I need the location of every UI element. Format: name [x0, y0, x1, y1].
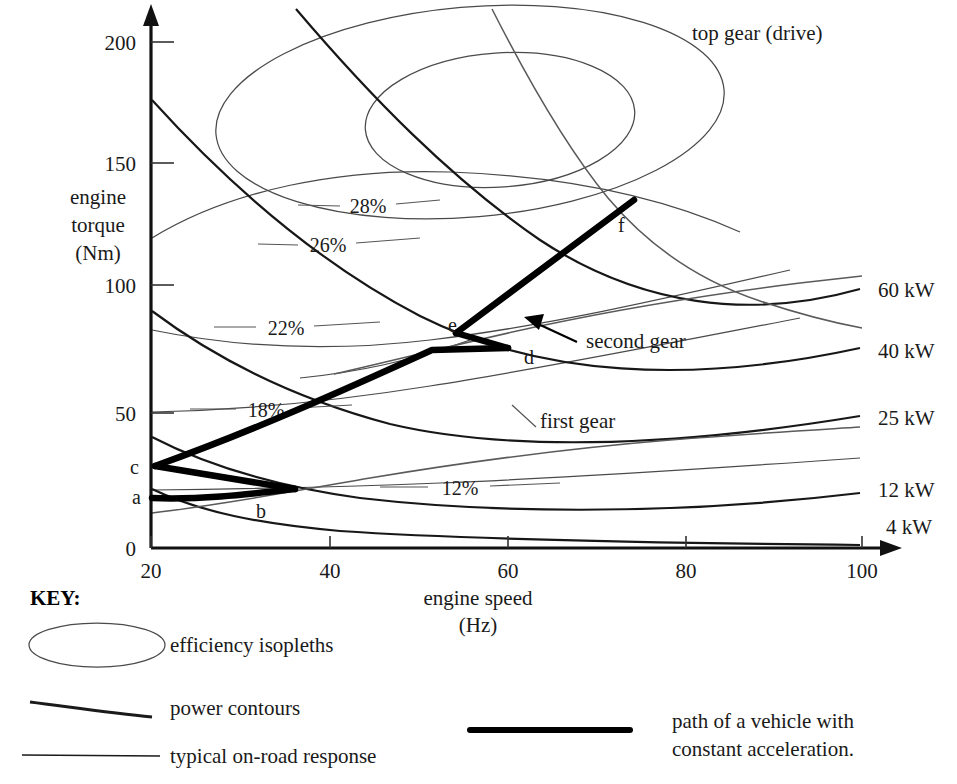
- path-point-label-e: e: [448, 314, 457, 336]
- y-tick-label-0: 0: [126, 537, 137, 561]
- annotation-first-gear: first gear: [540, 409, 615, 433]
- isopleth-label-12: 12%: [442, 477, 479, 499]
- path-point-label-b: b: [256, 500, 266, 522]
- x-tick-label-80: 80: [676, 559, 697, 583]
- key-label-on-road-response: typical on-road response: [170, 744, 376, 768]
- x-axis-unit: (Hz): [459, 613, 497, 637]
- path-point-label-c: c: [130, 456, 139, 478]
- x-tick-label-60: 60: [498, 559, 519, 583]
- isopleth-label-26: 26%: [310, 234, 347, 256]
- x-axis-title: engine speed: [423, 586, 533, 610]
- y-axis-title-line2: torque: [71, 213, 125, 237]
- annotation-second-gear: second gear: [586, 329, 686, 353]
- x-tick-label-100: 100: [846, 559, 878, 583]
- path-point-label-a: a: [132, 486, 141, 508]
- power-label-12kw: 12 kW: [878, 478, 935, 502]
- key-label-efficiency-isopleths: efficiency isopleths: [170, 633, 333, 657]
- x-tick-label-20: 20: [141, 559, 162, 583]
- x-tick-label-40: 40: [320, 559, 341, 583]
- chart-background: [0, 0, 957, 784]
- path-point-label-f: f: [618, 214, 625, 236]
- key-title: KEY:: [30, 586, 81, 610]
- y-axis-title-line1: engine: [70, 185, 126, 209]
- annotation-top-gear: top gear (drive): [692, 21, 823, 45]
- power-label-4kw: 4 kW: [886, 515, 932, 539]
- y-axis-unit: (Nm): [75, 241, 121, 265]
- engine-performance-chart: 200 150 100 50 0 20 40 60 80 100 engine …: [0, 0, 957, 784]
- key-label-vehicle-path-line1: path of a vehicle with: [672, 709, 854, 733]
- key-label-vehicle-path-line2: constant acceleration.: [672, 737, 854, 761]
- power-label-25kw: 25 kW: [878, 406, 935, 430]
- y-axis-title-group: engine torque (Nm): [70, 185, 126, 265]
- isopleth-label-22: 22%: [268, 317, 305, 339]
- path-point-label-d: d: [524, 346, 534, 368]
- key-label-power-contours: power contours: [170, 696, 300, 720]
- y-tick-label-100: 100: [105, 274, 137, 298]
- chart-svg: 200 150 100 50 0 20 40 60 80 100 engine …: [0, 0, 957, 784]
- y-tick-label-50: 50: [115, 402, 136, 426]
- y-tick-label-200: 200: [105, 31, 137, 55]
- isopleth-label-28: 28%: [350, 195, 387, 217]
- power-label-40kw: 40 kW: [878, 339, 935, 363]
- power-label-60kw: 60 kW: [878, 278, 935, 302]
- y-tick-label-150: 150: [105, 152, 137, 176]
